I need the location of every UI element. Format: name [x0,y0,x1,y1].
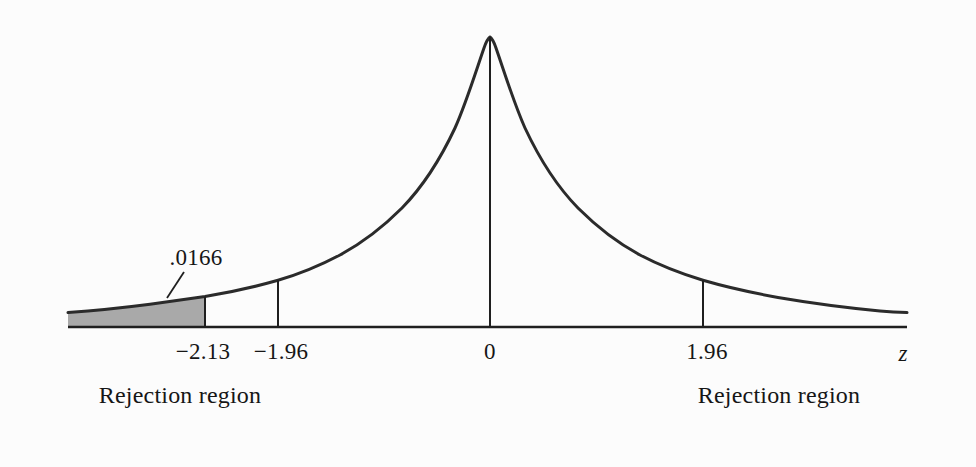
normal-distribution-figure: .0166 −2.13 −1.96 0 1.96 z Rejection reg… [0,0,976,467]
normal-curve [68,37,907,313]
tick-label-neg-1-96: −1.96 [254,340,309,363]
tick-label-zero: 0 [484,340,496,363]
tail-area-annotation: .0166 [169,246,222,269]
tick-label-neg-2-13: −2.13 [176,340,231,363]
axis-variable-label: z [899,342,908,365]
annotation-leader-line [167,272,184,298]
tick-label-pos-1-96: 1.96 [686,340,727,363]
rejection-region-label-left: Rejection region [99,383,261,407]
rejection-region-label-right: Rejection region [698,383,860,407]
